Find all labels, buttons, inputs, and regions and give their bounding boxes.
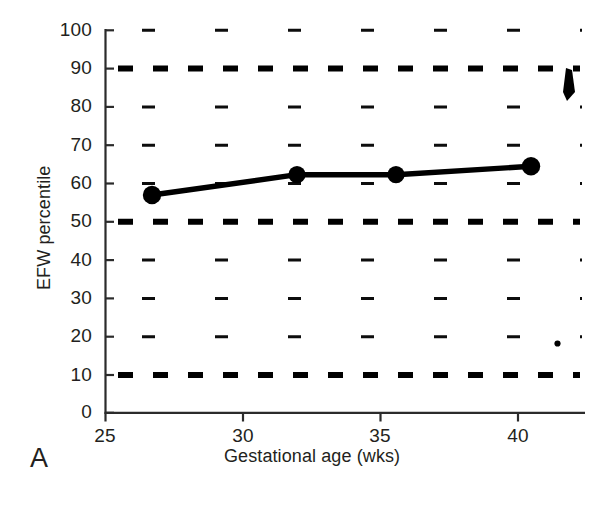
y-tick-label-30: 30 (44, 287, 92, 309)
figure-panel-a: 100 90 80 70 60 50 40 30 20 10 0 25 30 3… (0, 0, 601, 506)
data-point-marker (288, 166, 305, 183)
x-tick-label-35: 35 (357, 425, 403, 447)
y-axis-ticks (106, 30, 115, 413)
y-tick-label-10: 10 (44, 364, 92, 386)
series-efw-percentile-trajectory (143, 157, 540, 204)
x-tick-label-25: 25 (82, 425, 128, 447)
x-tick-label-30: 30 (220, 425, 266, 447)
stray-dot-mark (554, 340, 560, 346)
y-tick-label-80: 80 (44, 95, 92, 117)
data-point-marker (387, 166, 404, 183)
panel-label: A (30, 443, 49, 474)
minor-reference-lines (142, 30, 582, 336)
x-tick-label-40: 40 (495, 425, 541, 447)
edge-teardrop-mark (563, 68, 575, 101)
x-axis-title: Gestational age (wks) (224, 446, 400, 467)
data-point-marker (143, 186, 161, 204)
data-point-marker (522, 157, 540, 175)
y-tick-label-100: 100 (44, 19, 92, 41)
y-tick-label-20: 20 (44, 325, 92, 347)
y-tick-label-90: 90 (44, 57, 92, 79)
reference-lines-bold (118, 69, 580, 375)
y-axis-title: EFW percentile (34, 166, 55, 290)
series-line (152, 166, 531, 195)
y-tick-label-70: 70 (44, 134, 92, 156)
x-axis-ticks (106, 413, 519, 422)
y-tick-label-0: 0 (44, 401, 92, 423)
scan-annotations (554, 68, 575, 347)
